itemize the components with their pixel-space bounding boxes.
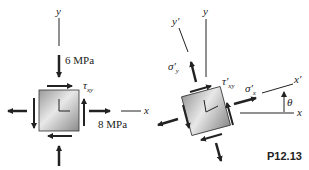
sigma-x-prime-label: σ′x [245,82,257,97]
left-stress-element: y 6 MPa τxy 8 MPa x [8,5,149,166]
stress-label-8mpa: 8 MPa [98,118,127,130]
x-axis-label: x [143,104,149,116]
x-prime-axis-label: x′ [293,73,302,85]
stress-arrow-left [158,119,178,125]
sigma-x-prime-arrow [234,98,256,104]
stress-label-6mpa: 6 MPa [65,54,94,66]
right-stress-element: y y′ σ′y τ′xy σ′x x′ x θ [158,5,302,161]
x-axis-label: x [296,106,302,118]
y-prime-axis-label: y′ [171,15,180,27]
sigma-y-prime-arrow [191,62,196,82]
sigma-y-prime-label: σ′y [168,60,180,75]
x-prime-axis-line [262,84,293,93]
shear-label-tau-prime-xy: τ′xy [222,75,235,90]
stress-arrow-bottom [216,143,221,161]
stress-transformation-diagram: y 6 MPa τxy 8 MPa x y y′ σ′y [0,0,309,170]
y-axis-label: y [55,5,61,17]
shear-label-tau-xy: τxy [83,79,94,94]
y-axis-label: y [202,5,208,17]
shear-arrow-bottom [201,134,222,140]
y-prime-axis-line [179,28,188,52]
figure-number: P12.13 [267,150,302,162]
theta-label: θ [287,96,293,108]
